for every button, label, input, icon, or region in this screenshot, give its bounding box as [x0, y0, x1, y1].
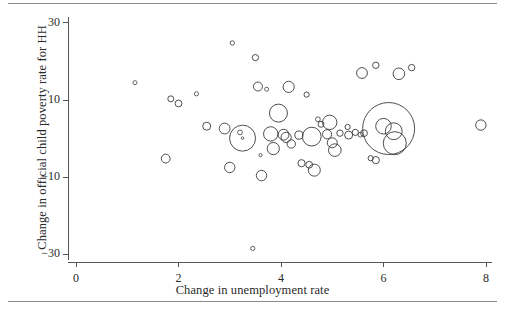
data-point-bubble: [252, 54, 258, 60]
data-point-bubble: [304, 92, 309, 97]
x-tick-label: 8: [461, 271, 505, 286]
data-point-bubble: [259, 154, 262, 157]
data-point-bubble: [278, 129, 289, 140]
y-tick-label: −10: [16, 169, 60, 184]
figure-container: Change in official child poverty rate fo…: [0, 0, 505, 320]
data-point-bubble: [265, 87, 269, 91]
x-tick-label: 2: [154, 271, 204, 286]
data-point-bubble: [372, 157, 379, 164]
data-point-bubble: [219, 123, 230, 134]
data-point-bubble: [329, 144, 342, 157]
axes-group: [63, 17, 492, 267]
data-point-bubble: [267, 142, 279, 154]
x-tick-label: 4: [256, 271, 306, 286]
data-point-bubble: [264, 127, 278, 141]
data-point-bubble: [302, 127, 321, 146]
data-point-bubble: [175, 100, 182, 107]
data-point-bubble: [373, 62, 379, 68]
y-tick-label: −30: [16, 246, 60, 261]
data-point-bubble: [376, 118, 392, 134]
data-point-bubble: [385, 123, 402, 140]
data-point-bubble: [383, 132, 406, 155]
data-point-bubble: [476, 120, 486, 130]
data-point-bubble: [287, 140, 295, 148]
data-point-bubble: [352, 129, 358, 135]
data-point-bubble: [238, 130, 243, 135]
data-point-bubble: [168, 96, 174, 102]
data-point-bubble: [308, 164, 320, 176]
data-point-bubble: [316, 117, 321, 122]
data-point-bubble: [133, 81, 137, 85]
data-point-bubble: [161, 154, 170, 163]
data-point-bubble: [203, 122, 211, 130]
data-point-bubble: [230, 125, 256, 151]
data-point-bubble: [345, 124, 350, 129]
data-point-bubble: [283, 81, 294, 92]
data-point-bubble: [225, 162, 235, 172]
data-point-bubble: [194, 92, 198, 96]
data-point-bubble: [363, 103, 415, 155]
data-points-group: [133, 41, 486, 251]
data-point-bubble: [345, 131, 353, 139]
data-point-bubble: [230, 41, 234, 45]
data-point-bubble: [323, 130, 332, 139]
y-tick-label: 10: [16, 92, 60, 107]
data-point-bubble: [295, 131, 303, 139]
data-point-bubble: [298, 160, 305, 167]
y-tick-label: 30: [16, 15, 60, 30]
data-point-bubble: [393, 68, 405, 80]
data-point-bubble: [408, 64, 414, 70]
data-point-bubble: [322, 115, 336, 129]
y-axis-label: Change in official child poverty rate fo…: [35, 13, 50, 263]
data-point-bubble: [241, 137, 244, 140]
data-point-bubble: [269, 104, 287, 122]
data-point-bubble: [327, 138, 337, 148]
x-tick-label: 0: [51, 271, 101, 286]
data-point-bubble: [337, 130, 343, 136]
data-point-bubble: [256, 170, 266, 180]
data-point-bubble: [251, 246, 255, 250]
data-point-bubble: [357, 68, 368, 79]
x-tick-label: 6: [359, 271, 409, 286]
data-point-bubble: [281, 132, 291, 142]
data-point-bubble: [253, 82, 262, 91]
